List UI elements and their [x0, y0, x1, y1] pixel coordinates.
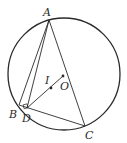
geometry-figure: A B C D I O [0, 0, 127, 143]
segment-AC [49, 20, 85, 126]
point-I [50, 87, 53, 90]
point-O [62, 75, 65, 78]
label-C: C [85, 129, 94, 142]
label-B: B [8, 108, 17, 121]
label-D: D [21, 112, 31, 125]
segment-AD [27, 20, 49, 108]
label-A: A [42, 6, 51, 19]
label-O: O [60, 80, 69, 93]
label-I: I [44, 74, 50, 87]
